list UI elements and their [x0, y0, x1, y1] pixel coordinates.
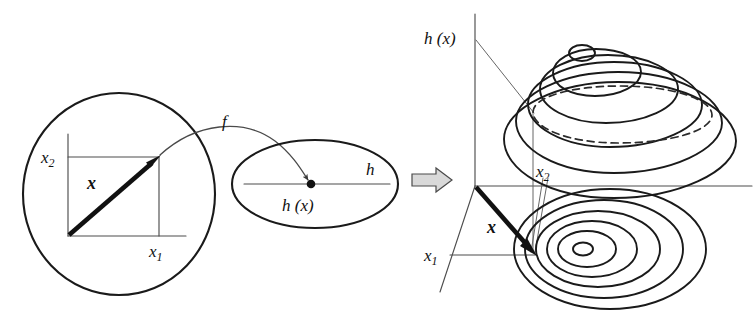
- middle-panel: h (x) h: [232, 140, 398, 228]
- input-vector-label: x: [86, 173, 96, 193]
- output-line-label: h: [366, 160, 375, 179]
- axis-label-h-of-x: h (x): [424, 29, 456, 48]
- level-set-contours: [514, 189, 706, 309]
- implies-arrow: [412, 168, 452, 192]
- axis-label-x1: x1: [423, 246, 438, 268]
- figure-root: x2 x1 x f h (x) h: [0, 0, 755, 331]
- input-axis-label-x1: x1: [148, 242, 163, 264]
- input-axis-label-x2: x2: [40, 148, 55, 170]
- mapping-f: f: [160, 112, 308, 180]
- input-vector-x: [69, 163, 152, 235]
- output-point-label: h (x): [282, 196, 314, 215]
- diagram-canvas: x2 x1 x f h (x) h: [0, 0, 755, 331]
- contour-ring-3: [547, 221, 637, 277]
- base-vector-label: x: [486, 217, 496, 237]
- contour-ring-6: [514, 189, 706, 309]
- contour-ring-4: [536, 211, 660, 287]
- axis-label-x2: x2: [535, 162, 550, 184]
- left-panel: x2 x1 x: [23, 93, 215, 295]
- right-panel: h (x) x2 x1 x: [423, 14, 752, 309]
- contour-ring-2: [558, 231, 616, 267]
- output-point-dot: [307, 180, 316, 189]
- contour-ring-1: [573, 243, 593, 256]
- base-vector-x: [476, 187, 527, 245]
- dome-level-set-dashed: [533, 86, 712, 143]
- axis-x1-diagonal: [440, 186, 475, 292]
- dome-contour-4: [528, 62, 702, 147]
- mapping-f-label: f: [222, 112, 229, 131]
